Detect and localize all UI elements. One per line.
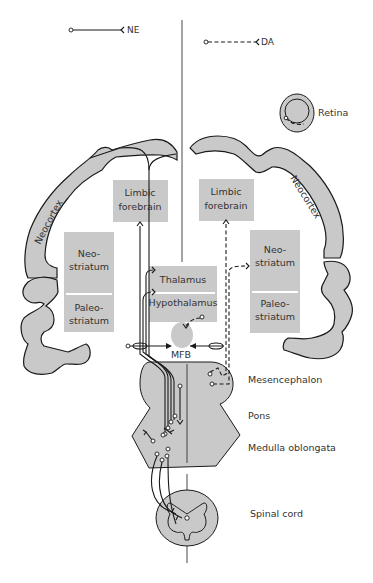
hypothalamus-label: Hypothalamus: [149, 297, 218, 308]
spinal-cord: [156, 490, 218, 563]
paleostriatum-left-line1: Paleo-: [74, 302, 103, 313]
mfb-label: MFB: [171, 349, 191, 360]
mesencephalon-label: Mesencephalon: [248, 374, 322, 385]
legend-da-label: DA: [261, 37, 275, 47]
limbic-left-line1: Limbic: [124, 187, 155, 198]
limbic-right-line1: Limbic: [210, 186, 241, 197]
neurotransmitter-pathway-diagram: NE DA Retina Neocortex Neocortex Limbic …: [0, 0, 373, 583]
neostriatum-right-line1: Neo-: [264, 244, 286, 255]
brainstem: [132, 362, 240, 468]
neostriatum-left-line1: Neo-: [78, 248, 100, 259]
medulla-oblongata-label: Medulla oblongata: [248, 442, 336, 453]
retina: Retina: [280, 94, 348, 132]
legend-da: DA: [204, 37, 275, 47]
paleostriatum-right-line1: Paleo-: [260, 298, 289, 309]
neostriatum-right-line2: striatum: [255, 257, 295, 268]
synapse-terminal-icon: [256, 39, 259, 45]
retina-label: Retina: [318, 107, 348, 118]
neostriatum-left-line2: striatum: [69, 261, 109, 272]
pituitary: [171, 322, 193, 348]
spinal-cord-label: Spinal cord: [250, 508, 303, 519]
legend-ne: NE: [69, 25, 140, 35]
synapse-terminal-icon: [121, 27, 124, 33]
paleostriatum-left-line2: striatum: [69, 315, 109, 326]
limbic-right-line2: forebrain: [204, 200, 247, 211]
limbic-left-line2: forebrain: [118, 201, 161, 212]
legend-ne-label: NE: [127, 25, 140, 35]
paleostriatum-right-line2: striatum: [255, 311, 295, 322]
thalamus-label: Thalamus: [159, 274, 206, 285]
pons-label: Pons: [248, 410, 270, 421]
